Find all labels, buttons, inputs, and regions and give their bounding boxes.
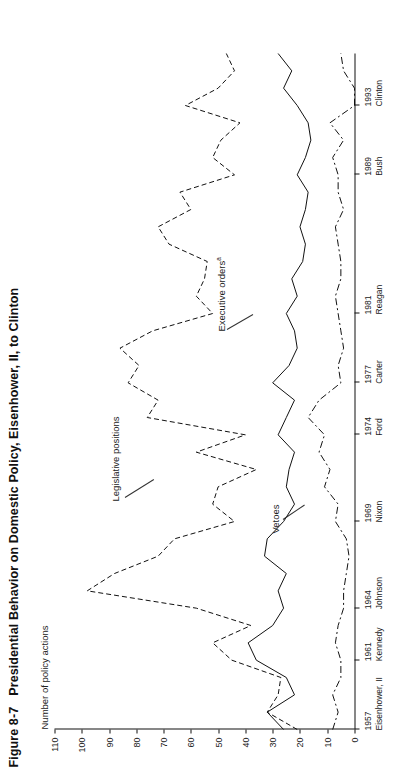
y-tick-label: 90: [104, 737, 114, 759]
annotation-vetoes: Vetoes: [269, 504, 280, 533]
x-tick-year: 1974: [362, 416, 373, 435]
y-tick-mark: [163, 729, 164, 733]
series-line-vetoes: [308, 53, 354, 729]
x-tick-label-group: 1977Carter: [362, 360, 383, 384]
y-tick-label: 80: [131, 737, 141, 759]
x-tick-mark: [354, 381, 359, 382]
y-tick-label: 60: [185, 737, 195, 759]
x-tick-president: Johnson: [373, 577, 384, 609]
x-tick-president: Clinton: [373, 80, 384, 106]
series-line-legislative-positions: [87, 53, 297, 729]
annotation-executive-orders: Executive ordersa: [214, 257, 226, 331]
y-tick-mark: [190, 729, 191, 733]
annotation-executive-orders-text: Executive orders: [215, 260, 226, 331]
y-tick-mark: [299, 729, 300, 733]
x-tick-mark: [354, 433, 359, 434]
x-tick-label-group: 1989Bush: [362, 156, 383, 175]
series-line-executive-orders: [248, 53, 311, 729]
x-tick-mark: [354, 312, 359, 313]
plot-area: 1101009080706050403020100 1957Eisenhower…: [54, 53, 354, 729]
y-tick-label: 0: [349, 737, 359, 759]
x-tick-year: 1993: [362, 80, 373, 106]
x-tick-president: Eisenhower, II: [373, 677, 384, 730]
y-tick-mark: [81, 729, 82, 733]
figure-number: Figure 8-7: [6, 706, 20, 767]
x-tick-year: 1977: [362, 360, 373, 384]
y-tick-mark: [245, 729, 246, 733]
y-tick-label: 30: [267, 737, 277, 759]
x-tick-mark: [354, 173, 359, 174]
x-tick-label-group: 1957Eisenhower, II: [362, 677, 383, 730]
annotation-legislative-positions: Legislative positions: [109, 416, 120, 501]
y-tick-mark: [327, 729, 328, 733]
x-tick-president: Nixon: [373, 500, 384, 522]
x-tick-mark: [354, 607, 359, 608]
figure-stage: Figure 8-7Presidential Behavior on Domes…: [0, 0, 415, 775]
series-lines: [54, 53, 354, 729]
x-tick-label-group: 1981Reagan: [362, 284, 383, 314]
annotation-footnote-marker: a: [214, 257, 221, 261]
y-tick-mark: [218, 729, 219, 733]
y-tick-label: 100: [76, 737, 86, 759]
x-tick-president: Ford: [373, 416, 384, 435]
x-tick-year: 1969: [362, 500, 373, 522]
y-tick-label: 110: [49, 737, 59, 759]
y-tick-mark: [272, 729, 273, 733]
x-tick-mark: [354, 520, 359, 521]
y-tick-label: 50: [213, 737, 223, 759]
x-tick-president: Carter: [373, 360, 384, 384]
x-tick-year: 1989: [362, 156, 373, 175]
x-tick-mark: [354, 659, 359, 660]
y-axis-label: Number of policy actions: [38, 625, 49, 729]
x-tick-mark: [354, 728, 359, 729]
y-tick-label: 40: [240, 737, 250, 759]
y-tick-label: 20: [294, 737, 304, 759]
y-tick-label: 10: [322, 737, 332, 759]
x-tick-label-group: 1969Nixon: [362, 500, 383, 522]
x-tick-year: 1981: [362, 284, 373, 314]
x-tick-year: 1961: [362, 627, 373, 661]
x-tick-label-group: 1964Johnson: [362, 577, 383, 609]
y-tick-mark: [354, 729, 355, 733]
y-tick-mark: [109, 729, 110, 733]
figure-title: Figure 8-7Presidential Behavior on Domes…: [6, 287, 20, 767]
x-tick-president: Bush: [373, 156, 384, 175]
x-tick-president: Kennedy: [373, 627, 384, 661]
y-tick-mark: [54, 729, 55, 733]
x-tick-label-group: 1993Clinton: [362, 80, 383, 106]
x-tick-label-group: 1974Ford: [362, 416, 383, 435]
y-tick-label: 70: [158, 737, 168, 759]
x-tick-year: 1957: [362, 677, 373, 730]
x-tick-president: Reagan: [373, 284, 384, 314]
x-tick-label-group: 1961Kennedy: [362, 627, 383, 661]
figure-caption: Presidential Behavior on Domestic Policy…: [6, 287, 20, 695]
x-tick-year: 1964: [362, 577, 373, 609]
y-tick-mark: [136, 729, 137, 733]
